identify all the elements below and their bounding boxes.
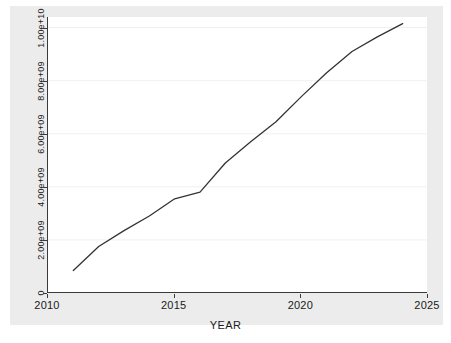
data-series-line bbox=[73, 24, 402, 271]
x-axis-tick-label-0: 2010 bbox=[33, 299, 61, 311]
plot-canvas bbox=[48, 17, 428, 293]
chart-figure: Infrastructure Shortfall (Running Total)… bbox=[0, 0, 451, 343]
x-axis-tick-mark-3 bbox=[427, 294, 428, 298]
x-axis-title: YEAR bbox=[0, 319, 451, 331]
figure-left-margin bbox=[0, 0, 10, 343]
figure-top-margin bbox=[0, 0, 451, 6]
x-axis-tick-label-1: 2015 bbox=[160, 299, 188, 311]
x-axis-tick-label-3: 2025 bbox=[413, 299, 441, 311]
x-axis-tick-mark-1 bbox=[174, 294, 175, 298]
x-axis-tick-mark-2 bbox=[300, 294, 301, 298]
x-axis-tick-mark-0 bbox=[47, 294, 48, 298]
figure-right-margin bbox=[443, 0, 451, 343]
x-axis-tick-label-2: 2020 bbox=[286, 299, 314, 311]
grid-lines bbox=[48, 28, 428, 240]
plot-area bbox=[47, 17, 427, 293]
